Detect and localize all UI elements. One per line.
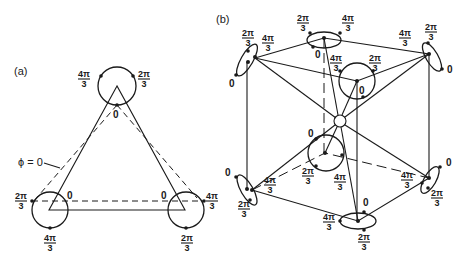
label-b-top-right-zero: 0 <box>447 64 453 75</box>
svg-text:3: 3 <box>184 243 189 253</box>
label-b-top-front-zero: 0 <box>359 85 365 96</box>
label-b-top-back-4pi3: 4π 3 <box>342 13 354 33</box>
label-b-bottom-right-zero: 0 <box>446 157 452 168</box>
label-b-top-left-4pi3: 4π 3 <box>262 33 274 53</box>
svg-text:3: 3 <box>372 63 377 73</box>
svg-text:2π: 2π <box>358 232 370 242</box>
panel-a: (a) ϕ = 0 4π 3 2π 3 0 <box>14 65 218 253</box>
svg-text:4π: 4π <box>334 172 346 182</box>
label-b-bottom-front-4pi3: 4π 3 <box>323 212 335 232</box>
panel-a-label: (a) <box>14 65 27 77</box>
svg-text:4π: 4π <box>78 69 90 79</box>
svg-text:3: 3 <box>326 222 331 232</box>
phi-label: ϕ = 0 <box>18 156 43 168</box>
label-top-zero: 0 <box>113 109 119 120</box>
label-b-bottom-left-zero: 0 <box>225 167 231 178</box>
svg-text:2π: 2π <box>15 191 27 201</box>
svg-text:3: 3 <box>305 176 310 186</box>
label-br-zero: 0 <box>161 190 167 201</box>
label-b-top-back-zero: 0 <box>315 49 321 60</box>
label-b-bottom-back-2pi3: 2π 3 <box>302 166 314 186</box>
svg-text:2π: 2π <box>302 166 314 176</box>
svg-text:4π: 4π <box>264 175 276 185</box>
svg-text:2π: 2π <box>181 233 193 243</box>
dashed-edge-left <box>33 105 117 202</box>
svg-text:3: 3 <box>245 38 250 48</box>
label-b-top-right-4pi3: 4π 3 <box>399 28 411 48</box>
svg-text:3: 3 <box>300 23 305 33</box>
dashed-edge-right <box>117 105 197 198</box>
label-b-bottom-right-4pi3: 4π 3 <box>401 170 413 190</box>
svg-text:3: 3 <box>47 243 52 253</box>
svg-text:3: 3 <box>18 201 23 211</box>
svg-text:2π: 2π <box>238 199 250 209</box>
svg-text:4π: 4π <box>330 53 342 63</box>
phi-arrow <box>44 163 60 168</box>
svg-text:3: 3 <box>428 32 433 42</box>
label-br-bottom: 2π 3 <box>181 233 193 253</box>
svg-text:3: 3 <box>345 23 350 33</box>
label-b-top-right-2pi3: 2π 3 <box>425 22 437 42</box>
svg-text:3: 3 <box>404 180 409 190</box>
label-b-bottom-back-zero: 0 <box>308 128 314 139</box>
svg-text:4π: 4π <box>206 191 218 201</box>
label-b-bottom-right-2pi3: 2π 3 <box>431 188 443 208</box>
svg-text:3: 3 <box>265 43 270 53</box>
svg-text:2π: 2π <box>369 53 381 63</box>
svg-text:4π: 4π <box>342 13 354 23</box>
panel-b-label: (b) <box>216 13 229 25</box>
label-b-top-left-zero: 0 <box>229 78 235 89</box>
label-br-right: 4π 3 <box>206 191 218 211</box>
svg-text:4π: 4π <box>323 212 335 222</box>
svg-text:3: 3 <box>361 242 366 252</box>
svg-text:4π: 4π <box>262 33 274 43</box>
diagram-canvas: (a) ϕ = 0 4π 3 2π 3 0 <box>0 0 465 264</box>
svg-text:3: 3 <box>333 63 338 73</box>
svg-text:4π: 4π <box>44 233 56 243</box>
svg-text:3: 3 <box>81 79 86 89</box>
label-b-bottom-left-2pi3: 2π 3 <box>238 199 250 219</box>
panel-b: (b) <box>216 13 453 252</box>
svg-text:3: 3 <box>402 38 407 48</box>
svg-text:2π: 2π <box>431 188 443 198</box>
center-node <box>334 115 346 127</box>
svg-text:4π: 4π <box>401 170 413 180</box>
svg-text:3: 3 <box>434 198 439 208</box>
svg-text:2π: 2π <box>425 22 437 32</box>
svg-text:2π: 2π <box>297 13 309 23</box>
label-bl-zero: 0 <box>67 190 73 201</box>
svg-text:3: 3 <box>141 79 146 89</box>
label-b-bottom-left-4pi3: 4π 3 <box>264 175 276 195</box>
svg-text:4π: 4π <box>399 28 411 38</box>
label-b-bottom-front-zero: 0 <box>363 197 369 208</box>
label-top-right: 2π 3 <box>138 69 150 89</box>
svg-text:2π: 2π <box>242 28 254 38</box>
svg-text:3: 3 <box>337 182 342 192</box>
label-bl-bottom: 4π 3 <box>44 233 56 253</box>
label-b-bottom-back-4pi3: 4π 3 <box>334 172 346 192</box>
svg-text:3: 3 <box>241 209 246 219</box>
svg-text:2π: 2π <box>138 69 150 79</box>
label-bl-left: 2π 3 <box>15 191 27 211</box>
label-top-left: 4π 3 <box>78 69 90 89</box>
label-b-bottom-front-2pi3: 2π 3 <box>358 232 370 252</box>
label-b-top-back-2pi3: 2π 3 <box>297 13 309 33</box>
svg-text:3: 3 <box>209 201 214 211</box>
svg-text:3: 3 <box>267 185 272 195</box>
